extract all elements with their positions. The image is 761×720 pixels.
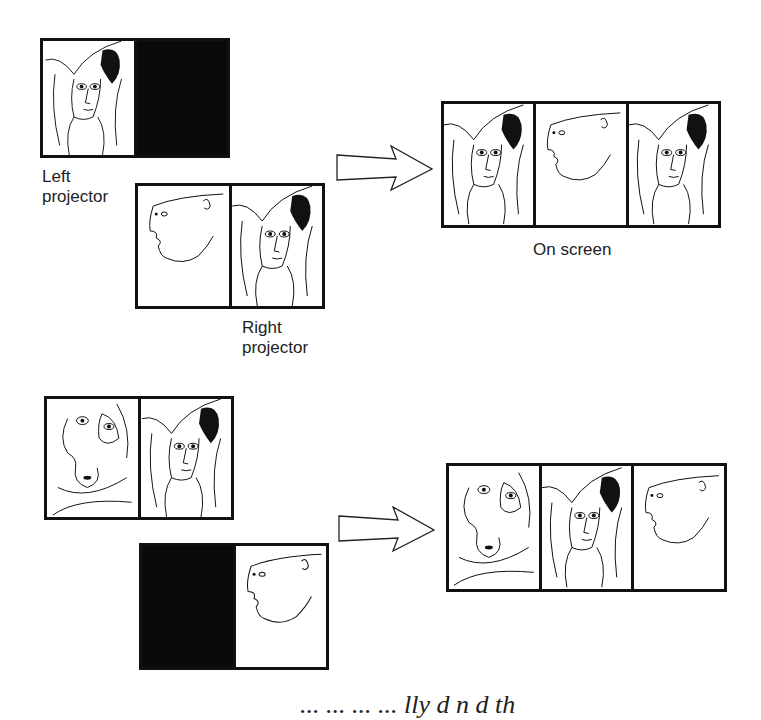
frame-woman-face [539, 466, 632, 589]
frame-woman-face [444, 104, 533, 225]
bottom-on-screen-film [446, 463, 727, 592]
top-left-projector-film [40, 38, 230, 158]
frame-black [134, 41, 228, 155]
bottom-right-projector-film [139, 543, 329, 670]
frame-woman-face [229, 186, 323, 306]
bottom-left-projector-film [44, 396, 234, 520]
on-screen-label: On screen [533, 240, 611, 260]
label-right: Right [242, 318, 308, 338]
label-left: Left [42, 167, 108, 187]
frame-woman-face [43, 41, 134, 155]
frame-woman-face [138, 399, 232, 517]
label-projector: projector [242, 338, 308, 358]
frame-abstract-face [47, 399, 138, 517]
frame-profile-face [631, 466, 724, 589]
left-projector-label: Left projector [42, 167, 108, 207]
frame-profile-face [533, 104, 625, 225]
arrow-right-icon [338, 506, 436, 552]
cutoff-body-text: ... ... ... ... lly d n d th [300, 690, 515, 720]
frame-profile-face [233, 546, 327, 667]
frame-woman-face [626, 104, 718, 225]
right-projector-label: Right projector [242, 318, 308, 358]
top-right-projector-film [135, 183, 325, 309]
label-projector: projector [42, 187, 108, 207]
frame-black [142, 546, 233, 667]
top-on-screen-film [441, 101, 721, 228]
frame-profile-face [138, 186, 229, 306]
arrow-right-icon [336, 145, 434, 191]
frame-abstract-face [449, 466, 539, 589]
